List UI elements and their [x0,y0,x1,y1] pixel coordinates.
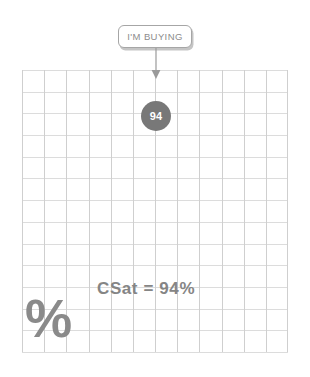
chart-canvas: I'M BUYING 94 CSat = 94% % [0,0,310,377]
down-arrow-icon [149,48,163,80]
metric-summary-label: CSat = 94% [97,279,195,299]
datapoint-marker[interactable]: 94 [141,101,171,131]
callout-badge-label: I'M BUYING [127,31,182,42]
grid-right-edge [287,70,288,353]
callout-badge[interactable]: I'M BUYING [118,25,192,48]
grid-bottom-edge [22,352,288,353]
percent-unit-glyph: % [25,292,72,345]
datapoint-value-label: 94 [150,110,163,122]
